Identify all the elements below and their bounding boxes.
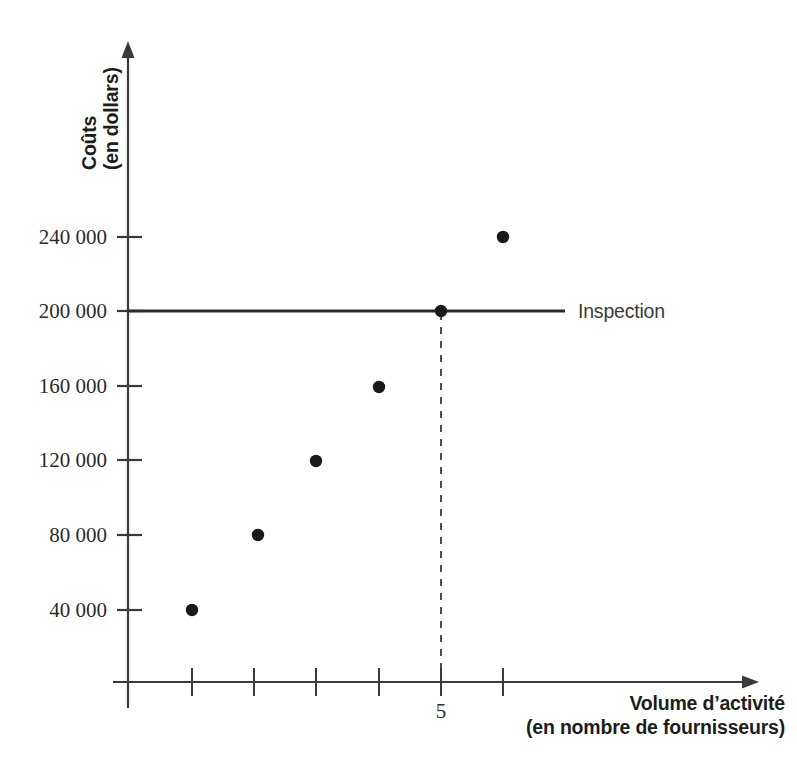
y-tick-label-240000: 240 000 bbox=[39, 225, 107, 249]
y-axis-title-line1: Coûts bbox=[78, 115, 100, 170]
y-axis-title: Coûts (en dollars) bbox=[78, 67, 122, 170]
scatter-plot-svg: 240 000 200 000 160 000 120 000 80 000 4… bbox=[0, 0, 797, 780]
data-point bbox=[373, 381, 385, 393]
x-axis-title-line1: Volume d’activité bbox=[629, 692, 785, 714]
y-axis-title-line2: (en dollars) bbox=[100, 67, 122, 170]
y-tick-label-160000: 160 000 bbox=[39, 374, 107, 398]
x-axis-group bbox=[113, 676, 759, 689]
x-axis-title-line2: (en nombre de fournisseurs) bbox=[526, 716, 785, 738]
y-tick-label-40000: 40 000 bbox=[49, 598, 107, 622]
y-tick-label-80000: 80 000 bbox=[49, 523, 107, 547]
x-axis-arrow-icon bbox=[742, 676, 759, 689]
data-point bbox=[497, 231, 509, 243]
y-axis-tick-labels: 240 000 200 000 160 000 120 000 80 000 4… bbox=[39, 225, 107, 622]
y-axis-ticks bbox=[117, 237, 142, 610]
y-tick-label-120000: 120 000 bbox=[39, 448, 107, 472]
y-tick-label-200000: 200 000 bbox=[39, 299, 107, 323]
data-point bbox=[252, 529, 264, 541]
chart-container: 240 000 200 000 160 000 120 000 80 000 4… bbox=[0, 0, 797, 780]
data-point bbox=[310, 455, 322, 467]
data-point bbox=[435, 305, 447, 317]
x-axis-title: Volume d’activité (en nombre de fourniss… bbox=[526, 692, 785, 738]
y-axis-arrow-icon bbox=[122, 41, 135, 58]
data-points-group bbox=[186, 231, 509, 616]
x-axis-tick-labels: 5 bbox=[436, 699, 447, 723]
y-axis-group bbox=[122, 41, 135, 708]
data-point bbox=[186, 604, 198, 616]
x-tick-label-5: 5 bbox=[436, 699, 447, 723]
inspection-series-label: Inspection bbox=[578, 300, 665, 322]
